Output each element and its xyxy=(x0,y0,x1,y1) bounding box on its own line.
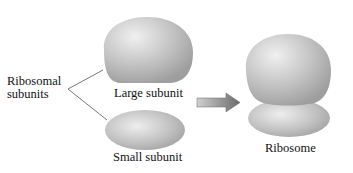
arrow-icon xyxy=(197,93,240,112)
ribosome-large-part xyxy=(246,34,331,106)
large-subunit-shape xyxy=(104,17,193,83)
connector-lines xyxy=(68,70,107,120)
ribosomal-label-line2: subunits xyxy=(7,88,61,101)
small-subunit-shape xyxy=(105,110,185,150)
ribosomal-subunits-label: Ribosomal subunits xyxy=(7,75,61,101)
small-subunit-label: Small subunit xyxy=(113,151,182,164)
ribosome-label: Ribosome xyxy=(265,142,316,155)
large-subunit-label: Large subunit xyxy=(114,87,183,100)
